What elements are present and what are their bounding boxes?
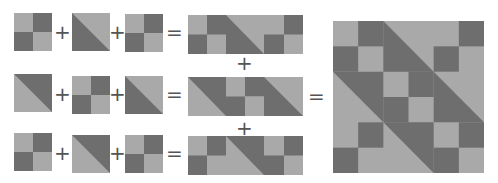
plus-sign: + — [236, 118, 252, 138]
row2-block2-four-patch — [72, 76, 110, 114]
equals-sign: = — [166, 143, 182, 163]
equals-sign-final: = — [308, 86, 324, 106]
row3-strip — [188, 136, 303, 175]
plus-sign: + — [109, 84, 125, 104]
row2-block1-hst — [14, 74, 52, 112]
equals-sign: = — [166, 84, 182, 104]
row2-strip — [188, 77, 303, 116]
row1-block3-four-patch — [125, 14, 163, 52]
row1-block1-four-patch — [14, 13, 52, 51]
plus-sign: + — [109, 22, 125, 42]
row2-block3-hst — [125, 76, 163, 114]
equals-sign: = — [166, 22, 182, 42]
row1-strip — [188, 15, 303, 54]
plus-sign: + — [109, 143, 125, 163]
row3-block3-four-patch — [125, 135, 163, 173]
row3-block2-hst — [72, 135, 110, 173]
plus-sign: + — [236, 53, 252, 73]
row3-block1-four-patch — [14, 133, 52, 171]
row1-block2-hst — [72, 13, 110, 51]
plus-sign: + — [54, 22, 70, 42]
final-quilt-block — [333, 21, 484, 173]
plus-sign: + — [54, 84, 70, 104]
plus-sign: + — [54, 143, 70, 163]
